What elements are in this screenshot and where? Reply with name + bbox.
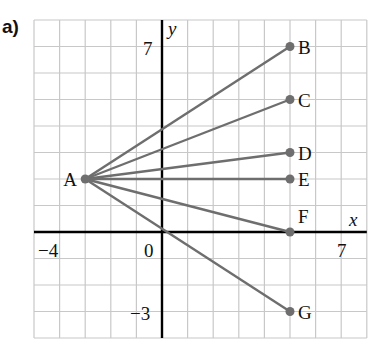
- y-axis-label: y: [166, 18, 177, 39]
- point-label-E: E: [298, 169, 310, 190]
- point-label-D: D: [298, 143, 312, 164]
- labels: y x 7 −4 0 7 −3: [38, 18, 358, 324]
- coordinate-grid: ABCDEFG y x 7 −4 0 7 −3: [0, 0, 368, 345]
- tick-label-y-min: −3: [130, 303, 150, 324]
- point-label-C: C: [298, 90, 311, 111]
- tick-label-x-max: 7: [337, 240, 347, 261]
- x-axis-label: x: [348, 209, 358, 230]
- point-F: [286, 228, 295, 237]
- point-label-A: A: [63, 169, 77, 190]
- point-label-F: F: [298, 206, 309, 227]
- point-G: [286, 307, 295, 316]
- tick-label-y-max: 7: [143, 38, 153, 59]
- point-B: [286, 42, 295, 51]
- point-C: [286, 95, 295, 104]
- point-A: [81, 175, 90, 184]
- point-label-B: B: [298, 37, 311, 58]
- tick-label-x-min: −4: [38, 240, 59, 261]
- point-D: [286, 148, 295, 157]
- tick-label-origin: 0: [144, 240, 154, 261]
- point-label-G: G: [298, 302, 312, 323]
- point-E: [286, 175, 295, 184]
